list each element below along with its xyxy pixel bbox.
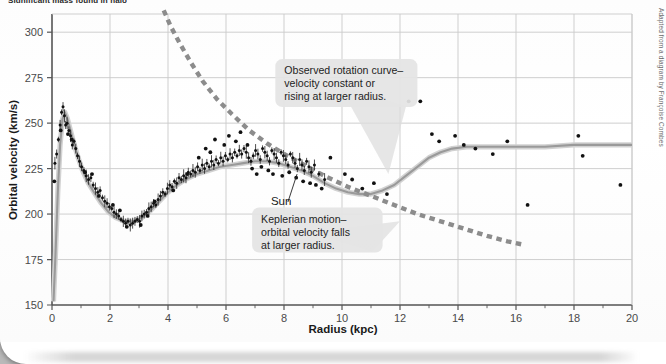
data-point — [159, 194, 162, 197]
y-tick-label: 225 — [25, 163, 43, 175]
data-point — [53, 162, 56, 165]
data-point — [197, 156, 201, 160]
data-point — [430, 132, 434, 136]
data-point — [360, 187, 364, 191]
data-point — [62, 105, 65, 108]
data-point — [310, 171, 313, 174]
data-point — [171, 185, 174, 188]
data-point — [111, 203, 115, 207]
data-point — [66, 132, 70, 136]
data-point — [291, 156, 294, 159]
data-point — [236, 154, 239, 157]
data-point — [208, 150, 212, 154]
data-point — [259, 165, 263, 169]
data-point — [74, 147, 77, 150]
data-point — [97, 194, 101, 198]
data-point — [505, 139, 509, 143]
data-point — [80, 165, 83, 168]
data-point — [453, 134, 457, 138]
data-point — [263, 151, 266, 154]
data-point — [71, 143, 74, 146]
data-point — [57, 138, 60, 141]
data-point — [164, 193, 167, 196]
sun-label: Sun — [271, 195, 291, 207]
data-point — [150, 205, 153, 208]
data-point — [205, 162, 208, 165]
data-point — [180, 178, 183, 181]
callout-line: velocity constant or — [284, 77, 375, 89]
x-tick-label: 2 — [107, 312, 113, 324]
data-point — [145, 211, 148, 214]
data-point — [247, 156, 250, 159]
data-point — [314, 183, 318, 187]
data-point — [298, 158, 301, 161]
data-point — [101, 196, 104, 199]
data-point — [303, 169, 306, 172]
data-point — [76, 154, 79, 157]
x-tick-label: 12 — [394, 312, 406, 324]
data-point — [139, 223, 143, 227]
data-point — [245, 151, 248, 154]
data-point — [117, 214, 120, 217]
data-point — [275, 156, 278, 159]
data-point — [271, 172, 275, 176]
data-point — [59, 129, 63, 133]
data-point — [250, 167, 254, 171]
data-point — [90, 172, 94, 176]
data-point — [329, 156, 333, 160]
data-point — [153, 199, 157, 203]
data-point — [277, 162, 280, 165]
data-point — [240, 153, 243, 156]
data-point — [255, 172, 259, 176]
data-point — [294, 162, 297, 165]
data-point — [437, 139, 441, 143]
data-point — [110, 207, 113, 210]
x-tick-label: 6 — [223, 312, 229, 324]
y-tick-label: 300 — [25, 26, 43, 38]
data-point — [138, 220, 141, 223]
data-point — [372, 181, 376, 185]
data-point — [212, 163, 215, 166]
rotation-curve-chart: 150175200225250275300 02468101214161820 … — [0, 0, 666, 342]
data-point — [234, 139, 238, 143]
data-point — [317, 173, 320, 176]
data-point — [203, 167, 206, 170]
data-point — [280, 151, 283, 154]
callout-annotations: Observed rotation curve–velocity constan… — [252, 59, 417, 253]
data-point — [196, 165, 199, 168]
data-point — [224, 154, 227, 157]
data-point — [474, 147, 478, 151]
data-point — [189, 173, 192, 176]
data-point — [227, 134, 231, 138]
data-point — [238, 149, 241, 152]
y-tick-label: 200 — [25, 208, 43, 220]
data-point — [323, 178, 326, 181]
data-point — [157, 198, 160, 201]
data-point — [305, 160, 308, 163]
data-point — [313, 163, 316, 166]
data-point — [462, 143, 466, 147]
x-tick-label: 8 — [281, 312, 287, 324]
y-tick-label: 150 — [25, 299, 43, 311]
data-point — [85, 174, 88, 177]
data-point — [581, 154, 585, 158]
data-point — [125, 225, 129, 229]
data-point — [231, 156, 234, 159]
data-point — [213, 138, 217, 142]
data-point — [259, 158, 262, 161]
data-point — [252, 154, 255, 157]
model-curve-halo — [54, 112, 633, 301]
data-point — [526, 203, 530, 207]
data-point — [249, 160, 252, 163]
data-point — [175, 182, 178, 185]
data-point — [491, 152, 495, 156]
data-point — [287, 163, 290, 166]
data-point — [94, 187, 97, 190]
data-point — [146, 214, 150, 218]
data-point — [320, 187, 324, 191]
data-point — [239, 130, 243, 134]
data-point — [287, 170, 291, 174]
figure-panel: Significant mass found in halo 150175200… — [0, 0, 666, 364]
x-tick-label: 4 — [165, 312, 171, 324]
data-point — [166, 187, 169, 190]
